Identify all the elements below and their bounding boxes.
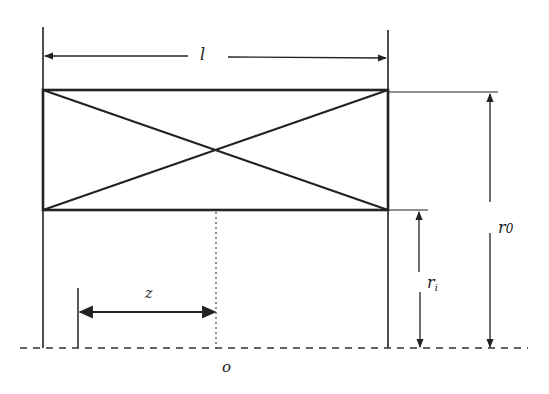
length-dimension-l bbox=[45, 56, 386, 58]
label-r0: r0 bbox=[496, 220, 515, 236]
label-z: z bbox=[143, 286, 154, 300]
coil-rectangle bbox=[43, 90, 388, 210]
label-origin-o: o bbox=[220, 360, 233, 375]
label-ri: ri bbox=[425, 275, 440, 293]
label-ri-sub: i bbox=[435, 282, 438, 293]
label-ri-main: r bbox=[427, 273, 435, 292]
label-r0-main: r bbox=[498, 218, 506, 237]
label-l: l bbox=[198, 47, 207, 63]
coil-diagram bbox=[0, 0, 549, 394]
inner-radius-dimension-ri bbox=[419, 212, 420, 347]
label-r0-sub: 0 bbox=[506, 222, 514, 236]
